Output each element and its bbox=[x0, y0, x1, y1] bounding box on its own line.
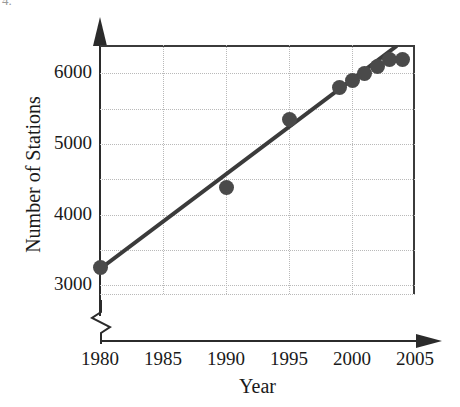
x-tick-label-1985: 1985 bbox=[128, 348, 198, 370]
x-tick-label-2000: 2000 bbox=[317, 348, 387, 370]
x-axis-line bbox=[100, 340, 418, 342]
y-axis-title: Number of Stations bbox=[22, 65, 45, 285]
x-tick-label-1980: 1980 bbox=[65, 348, 135, 370]
problem-number-label: 4. bbox=[2, 0, 12, 9]
data-point bbox=[395, 52, 410, 67]
data-points-layer bbox=[100, 45, 415, 294]
x-axis-title: Year bbox=[100, 375, 415, 398]
y-axis-arrow-icon bbox=[93, 17, 107, 46]
x-tick-label-1990: 1990 bbox=[191, 348, 261, 370]
data-point bbox=[93, 260, 108, 275]
data-point bbox=[282, 112, 297, 127]
plot-area bbox=[100, 45, 415, 294]
chart-figure: 4. 3000400050006000 19801985199019952000… bbox=[0, 0, 460, 407]
x-tick-label-1995: 1995 bbox=[254, 348, 324, 370]
x-axis-arrow-icon bbox=[416, 334, 442, 348]
data-point bbox=[219, 180, 234, 195]
gridline-3000-extension bbox=[100, 294, 415, 295]
x-tick-label-2005: 2005 bbox=[380, 348, 450, 370]
